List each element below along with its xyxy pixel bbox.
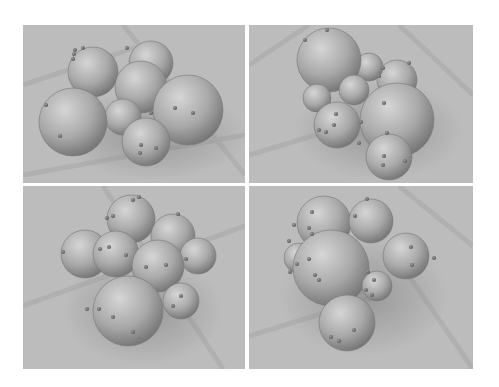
sphere — [349, 199, 393, 243]
surface-particle — [184, 257, 188, 261]
surface-particle — [409, 245, 413, 249]
surface-particle — [72, 52, 76, 56]
surface-particle — [179, 294, 183, 298]
surface-particle — [432, 256, 436, 260]
surface-particle — [139, 143, 143, 147]
surface-particle — [61, 250, 65, 254]
surface-particle — [337, 339, 341, 343]
surface-particle — [357, 141, 361, 145]
surface-particle — [382, 101, 386, 105]
sphere-cluster-render — [249, 25, 473, 183]
surface-particle — [307, 257, 311, 261]
surface-particle — [332, 123, 336, 127]
surface-particle — [317, 278, 321, 282]
surface-particle — [191, 111, 195, 115]
surface-particle — [372, 278, 376, 282]
render-panel-bottom-left — [23, 186, 245, 369]
surface-particle — [325, 28, 329, 32]
surface-particle — [73, 48, 77, 52]
surface-particle — [171, 304, 175, 308]
sphere-cluster-render — [23, 25, 245, 183]
surface-particle — [329, 335, 333, 339]
surface-particle — [111, 214, 115, 218]
surface-particle — [131, 198, 135, 202]
surface-particle — [352, 328, 356, 332]
surface-particle — [365, 197, 369, 201]
surface-particle — [317, 128, 321, 132]
surface-particle — [287, 239, 291, 243]
sphere — [163, 283, 199, 319]
surface-particle — [107, 245, 111, 249]
sphere — [122, 118, 170, 166]
sphere — [293, 230, 369, 306]
sphere — [39, 88, 107, 156]
surface-particle — [410, 263, 414, 267]
sphere — [314, 102, 360, 148]
sphere-cluster-render — [23, 186, 245, 369]
surface-particle — [295, 262, 299, 266]
surface-particle — [359, 120, 363, 124]
render-panel-top-left — [23, 25, 245, 183]
surface-particle — [111, 315, 115, 319]
sphere — [93, 276, 163, 346]
surface-particle — [366, 270, 370, 274]
surface-particle — [385, 131, 389, 135]
surface-particle — [381, 66, 385, 70]
surface-particle — [377, 74, 381, 78]
render-panel-top-right — [249, 25, 473, 183]
surface-particle — [105, 216, 109, 220]
surface-particle — [144, 265, 148, 269]
sphere — [366, 134, 412, 180]
surface-particle — [71, 57, 75, 61]
surface-particle — [310, 232, 314, 236]
sphere — [339, 75, 369, 105]
sphere — [319, 295, 375, 351]
surface-particle — [98, 247, 102, 251]
surface-particle — [58, 134, 62, 138]
surface-particle — [97, 307, 101, 311]
surface-particle — [370, 293, 374, 297]
surface-particle — [124, 253, 128, 257]
surface-particle — [131, 330, 135, 334]
surface-particle — [382, 154, 386, 158]
surface-particle — [403, 159, 407, 163]
surface-particle — [81, 46, 85, 50]
surface-particle — [44, 103, 48, 107]
surface-particle — [164, 263, 168, 267]
surface-particle — [364, 288, 368, 292]
surface-particle — [137, 195, 141, 199]
surface-particle — [307, 226, 311, 230]
surface-particle — [154, 146, 158, 150]
surface-particle — [149, 111, 153, 115]
render-panel-bottom-right — [249, 186, 473, 369]
surface-particle — [407, 61, 411, 65]
sphere-cluster-render — [249, 186, 473, 369]
surface-particle — [310, 210, 314, 214]
surface-particle — [125, 46, 129, 50]
surface-particle — [173, 106, 177, 110]
sphere — [383, 233, 429, 279]
surface-particle — [313, 273, 317, 277]
surface-particle — [381, 163, 385, 167]
sphere — [362, 271, 392, 301]
surface-particle — [138, 151, 142, 155]
sphere — [180, 238, 216, 274]
surface-particle — [288, 270, 292, 274]
surface-particle — [303, 38, 307, 42]
surface-particle — [324, 130, 328, 134]
surface-particle — [334, 112, 338, 116]
figure-grid — [23, 25, 473, 369]
surface-particle — [353, 214, 357, 218]
surface-particle — [176, 212, 180, 216]
surface-particle — [85, 307, 89, 311]
surface-particle — [292, 223, 296, 227]
